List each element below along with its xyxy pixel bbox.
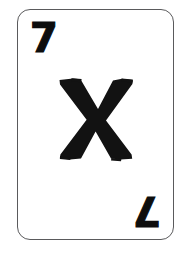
card-rank-bottom-right: 7 — [134, 191, 161, 231]
letter-x-icon — [58, 78, 134, 160]
card-rank-top-left: 7 — [30, 18, 57, 58]
flashcard[interactable]: 7 7 — [17, 9, 174, 240]
flashcard-scene: 7 7 — [0, 0, 191, 254]
